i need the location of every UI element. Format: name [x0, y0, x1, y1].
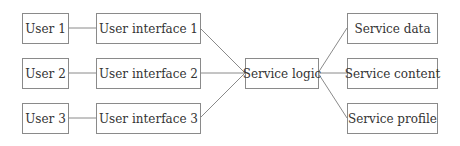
- edge-logic-profile: [318, 73, 347, 118]
- user-interface-2-node: User interface 2: [96, 58, 201, 89]
- edge-ui1-logic: [200, 28, 245, 73]
- service-profile-node: Service profile: [347, 103, 438, 134]
- user-1-node: User 1: [22, 13, 69, 44]
- edge-logic-data: [318, 28, 347, 73]
- service-logic-node: Service logic: [245, 58, 319, 89]
- user-2-node: User 2: [22, 58, 69, 89]
- service-content-node: Service content: [347, 58, 438, 89]
- user-interface-1-node: User interface 1: [96, 13, 201, 44]
- user-3-node: User 3: [22, 103, 69, 134]
- service-data-node: Service data: [347, 13, 438, 44]
- architecture-diagram: User 1 User 2 User 3 User interface 1 Us…: [0, 0, 460, 146]
- user-interface-3-node: User interface 3: [96, 103, 201, 134]
- edge-ui3-logic: [200, 73, 245, 118]
